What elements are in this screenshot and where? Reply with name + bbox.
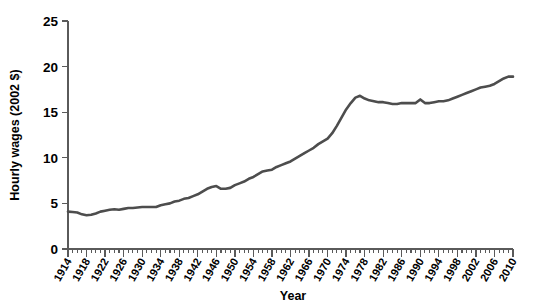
x-tick-label: 1922 [88,256,111,283]
x-tick-label: 1926 [107,256,130,283]
x-tick-label: 1994 [422,255,445,283]
y-tick-label: 5 [50,196,58,211]
chart-svg: 0510152025 19141918192219261930193419381… [0,0,534,305]
x-tick-label: 1998 [440,256,463,283]
x-tick-label: 1918 [70,256,93,283]
y-tick-label: 0 [50,242,58,257]
x-tick-label: 1974 [329,255,352,283]
x-tick-label: 1942 [181,256,204,283]
x-tick-label: 2010 [496,256,519,283]
x-axis-ticks: 1914191819221926193019341938194219461950… [51,249,519,283]
x-tick-label: 1986 [385,256,408,283]
x-tick-label: 2002 [459,256,482,283]
x-axis-title: Year [280,289,307,303]
x-tick-label: 1970 [311,256,334,283]
x-tick-label: 1946 [199,256,222,283]
x-tick-label: 1914 [51,255,74,283]
y-axis-title: Hourly wages (2002 $) [8,69,22,200]
x-tick-label: 1958 [255,256,278,283]
x-tick-label: 1934 [144,255,167,283]
x-tick-label: 1990 [403,256,426,283]
x-tick-label: 1962 [274,256,297,283]
x-tick-label: 1950 [218,256,241,283]
x-tick-label: 1966 [292,256,315,283]
data-series-line [68,77,513,216]
x-tick-label: 2006 [478,256,501,283]
chart-axes [68,21,513,249]
data-series-group [68,77,513,216]
x-tick-label: 1930 [125,256,148,283]
x-tick-label: 1982 [366,256,389,283]
y-tick-label: 20 [43,60,58,75]
x-tick-label: 1938 [162,256,185,283]
x-tick-label: 1978 [348,256,371,283]
y-tick-label: 15 [43,105,59,120]
y-tick-label: 25 [43,14,59,29]
x-tick-label: 1954 [237,255,260,283]
wage-line-chart: 0510152025 19141918192219261930193419381… [0,0,534,305]
y-tick-label: 10 [43,151,58,166]
y-axis-ticks: 0510152025 [43,14,68,257]
